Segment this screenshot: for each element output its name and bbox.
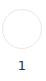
step-number-label: 1 — [0, 58, 44, 74]
step-indicator: 1 — [0, 0, 46, 81]
step-circle-button[interactable] — [2, 9, 42, 49]
